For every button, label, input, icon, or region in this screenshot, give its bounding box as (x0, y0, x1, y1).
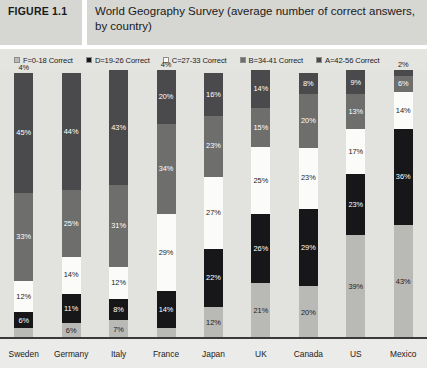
bar-segment-d[interactable]: 11% (62, 294, 81, 323)
bar-segment-label: 13% (348, 108, 363, 115)
stacked-bar[interactable]: 44%25%14%11%6% (62, 73, 81, 339)
bar-column-mexico[interactable]: 2%6%14%36%43% (380, 71, 427, 339)
bar-segment-label: 43% (396, 278, 411, 285)
bar-segment-label: 20% (159, 93, 174, 100)
bar-segment-f[interactable]: 39% (346, 235, 365, 339)
category-label-us: US (332, 339, 379, 368)
bar-segment-label: 23% (348, 201, 363, 208)
bar-segment-c[interactable]: 14% (62, 257, 81, 294)
bar-segment-c[interactable]: 12% (14, 281, 33, 313)
bar-columns: 45%33%12%6%4%44%25%14%11%6%43%31%12%8%7%… (0, 71, 427, 339)
bar-segment-a[interactable]: 14% (251, 70, 270, 107)
bar-segment-d[interactable]: 23% (346, 174, 365, 235)
stacked-bar[interactable]: 8%20%23%29%20% (299, 73, 318, 339)
bar-segment-c[interactable]: 14% (394, 92, 413, 129)
bar-segment-d[interactable]: 26% (251, 214, 270, 283)
bar-segment-label: 6% (66, 327, 77, 334)
bar-segment-b[interactable]: 6% (394, 76, 413, 92)
bar-segment-a[interactable]: 44% (62, 73, 81, 190)
bar-segment-label: 29% (159, 249, 174, 256)
legend-item-a[interactable]: A=42-56 Correct (316, 56, 379, 65)
legend-swatch-icon (316, 57, 322, 63)
bar-segment-d[interactable]: 36% (394, 129, 413, 225)
figure-container: FIGURE 1.1 World Geography Survey (avera… (0, 0, 427, 368)
stacked-bar[interactable]: 43%31%12%8%7% (109, 70, 128, 339)
category-label-italy: Italy (95, 339, 142, 368)
bar-segment-label: 34% (159, 165, 174, 172)
bar-segment-a[interactable]: 45% (14, 73, 33, 193)
bar-segment-label: 12% (16, 293, 31, 300)
bar-segment-b[interactable]: 20% (299, 94, 318, 147)
bar-segment-c[interactable]: 12% (109, 267, 128, 299)
legend-item-d[interactable]: D=19-26 Correct (86, 56, 150, 65)
bar-segment-d[interactable]: 6% (14, 312, 33, 328)
bar-column-france[interactable]: 20%34%29%14%4% (142, 71, 189, 339)
bar-segment-f[interactable]: 43% (394, 225, 413, 339)
bar-column-japan[interactable]: 16%23%27%22%12% (190, 71, 237, 339)
bar-segment-c[interactable]: 23% (299, 148, 318, 209)
bar-segment-b[interactable]: 13% (346, 94, 365, 129)
bar-segment-b[interactable]: 33% (14, 193, 33, 281)
bar-segment-a[interactable]: 16% (204, 73, 223, 116)
bar-segment-a[interactable]: 8% (299, 73, 318, 94)
bar-column-uk[interactable]: 14%15%25%26%21% (237, 71, 284, 339)
bar-segment-label: 33% (16, 233, 31, 240)
stacked-bar[interactable]: 45%33%12%6%4% (14, 73, 33, 339)
bar-segment-c[interactable]: 29% (157, 214, 176, 291)
bar-segment-a[interactable]: 9% (346, 70, 365, 94)
bar-segment-c[interactable]: 25% (251, 147, 270, 214)
bar-segment-label: 25% (254, 177, 269, 184)
bar-column-us[interactable]: 9%13%17%23%39% (332, 71, 379, 339)
stacked-bar[interactable]: 20%34%29%14%4% (157, 70, 176, 339)
bar-segment-label: 20% (301, 309, 316, 316)
legend-label: B=34-41 Correct (249, 56, 303, 65)
bar-segment-f[interactable]: 20% (299, 286, 318, 339)
bar-segment-label: 14% (396, 107, 411, 114)
bar-segment-label: 9% (350, 79, 361, 86)
figure-header: FIGURE 1.1 World Geography Survey (avera… (0, 0, 427, 45)
stacked-bar[interactable]: 9%13%17%23%39% (346, 70, 365, 339)
bar-segment-b[interactable]: 15% (251, 108, 270, 148)
legend-label: A=42-56 Correct (325, 56, 379, 65)
stacked-bar[interactable]: 14%15%25%26%21% (251, 70, 270, 339)
bar-segment-label: 16% (206, 91, 221, 98)
bar-segment-label: 17% (348, 148, 363, 155)
bar-column-canada[interactable]: 8%20%23%29%20% (285, 71, 332, 339)
bar-segment-label: 25% (64, 220, 79, 227)
bar-segment-label: 31% (111, 222, 126, 229)
figure-number: FIGURE 1.1 (0, 0, 82, 17)
bar-segment-label: 23% (206, 142, 221, 149)
category-label-japan: Japan (190, 339, 237, 368)
bar-segment-a[interactable]: 43% (109, 70, 128, 184)
bar-segment-label: 8% (113, 306, 124, 313)
stacked-bar[interactable]: 2%6%14%36%43% (394, 70, 413, 339)
legend-label: C=27-33 Correct (172, 56, 227, 65)
stacked-bar[interactable]: 16%23%27%22%12% (204, 73, 223, 339)
bar-segment-label: 7% (113, 326, 124, 333)
bar-column-sweden[interactable]: 45%33%12%6%4% (0, 71, 47, 339)
bar-segment-b[interactable]: 25% (62, 190, 81, 257)
legend-swatch-icon (240, 57, 246, 63)
bar-segment-b[interactable]: 23% (204, 116, 223, 177)
legend-item-b[interactable]: B=34-41 Correct (240, 56, 303, 65)
bar-segment-label: 39% (348, 283, 363, 290)
category-label-france: France (142, 339, 189, 368)
bar-segment-a[interactable]: 20% (157, 70, 176, 123)
bar-segment-f[interactable]: 21% (251, 283, 270, 339)
bar-segment-d[interactable]: 14% (157, 291, 176, 328)
bar-column-italy[interactable]: 43%31%12%8%7% (95, 71, 142, 339)
bar-column-germany[interactable]: 44%25%14%11%6% (47, 71, 94, 339)
bar-segment-label: 22% (206, 274, 221, 281)
bar-segment-c[interactable]: 17% (346, 129, 365, 174)
bar-segment-c[interactable]: 27% (204, 177, 223, 249)
bar-segment-b[interactable]: 31% (109, 185, 128, 267)
category-label-mexico: Mexico (380, 339, 427, 368)
bar-segment-label: 20% (301, 117, 316, 124)
bar-segment-d[interactable]: 8% (109, 299, 128, 320)
bar-segment-label: 45% (16, 129, 31, 136)
bar-segment-label: 44% (64, 128, 79, 135)
bar-segment-f[interactable]: 12% (204, 307, 223, 339)
bar-segment-d[interactable]: 22% (204, 249, 223, 308)
bar-segment-b[interactable]: 34% (157, 124, 176, 214)
bar-segment-d[interactable]: 29% (299, 209, 318, 286)
